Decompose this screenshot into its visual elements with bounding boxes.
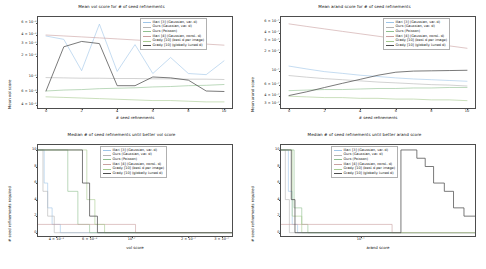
panel-mean-arand-score: Mean arand score for # of seed refinemen… (243, 4, 486, 130)
y-tick-label: 4 × 10⁻³ (21, 33, 36, 37)
x-tick-label: 10 (222, 110, 226, 114)
legend-color-swatch (103, 159, 111, 160)
x-tick-mark (90, 236, 91, 238)
x-tick-mark (46, 108, 47, 110)
panel-title: Mean arand score for # of seed refinemen… (243, 4, 486, 9)
y-tick-label: 6 × 10⁻¹ (264, 20, 279, 24)
legend: Illari [3] (Gaussian, var. d)Ours (Gauss… (100, 146, 167, 178)
legend-color-swatch (143, 22, 151, 23)
legend-color-swatch (103, 150, 111, 151)
legend-color-swatch (143, 31, 151, 32)
x-tick-mark (325, 108, 326, 110)
x-tick-mark (222, 236, 223, 238)
x-tick-label: 8 (187, 110, 189, 114)
x-tick-label: 6 (395, 110, 397, 114)
x-tick-label: 6 × 10⁻³ (82, 238, 97, 242)
x-tick-label: 4 × 10⁻³ (49, 238, 64, 242)
x-axis-label: arand score (280, 246, 476, 250)
panel-mean-vol-score: Mean vol score for # of seed refinements… (0, 4, 243, 130)
x-tick-label: 2 (80, 110, 82, 114)
legend-color-swatch (103, 155, 111, 156)
legend-color-swatch (143, 36, 151, 37)
legend-color-swatch (334, 150, 342, 151)
x-axis-label: # seed refinements (37, 116, 233, 120)
x-tick-mark (396, 108, 397, 110)
x-tick-mark (467, 108, 468, 110)
x-tick-label: 0 (288, 110, 290, 114)
x-tick-mark (431, 108, 432, 110)
x-axis-label: # seed refinements (280, 116, 476, 120)
x-tick-label: 6 (152, 110, 154, 114)
y-tick-label: 4 × 10⁻² (264, 94, 279, 98)
legend-item-label: Grady [10] (globally tuned d) (343, 172, 393, 176)
legend-color-swatch (103, 173, 111, 174)
series-line (289, 96, 467, 100)
x-axis-label: vol score (37, 246, 233, 250)
y-axis-label: # seed refinements required (251, 186, 255, 242)
x-tick-mark (360, 108, 361, 110)
y-tick-label: 6 × 10⁻² (264, 83, 279, 87)
panel-title: Mean vol score for # of seed refinements (0, 4, 243, 9)
y-tick-label: 6 × 10⁻³ (21, 21, 36, 25)
x-tick-mark (132, 236, 133, 238)
x-tick-label: 4 (116, 110, 118, 114)
y-axis-label: Mean arand score (251, 77, 255, 112)
series-line (46, 97, 224, 102)
legend-color-swatch (386, 22, 394, 23)
y-tick-label: 2 × 10⁻¹ (264, 50, 279, 54)
legend-color-swatch (143, 27, 151, 28)
x-tick-mark (56, 236, 57, 238)
y-tick-label: 10⁻¹ (272, 69, 280, 73)
panel-title: Median # of seed refinements until bette… (0, 132, 243, 137)
legend-color-swatch (103, 164, 111, 165)
x-tick-mark (289, 108, 290, 110)
series-line (38, 224, 232, 232)
legend-color-swatch (386, 27, 394, 28)
legend-color-swatch (143, 41, 151, 42)
y-tick-label: 4 × 10⁻¹ (264, 31, 279, 35)
legend: Illari [3] (Gaussian, var. d)Ours (Gauss… (140, 18, 207, 50)
legend-color-swatch (334, 159, 342, 160)
series-line (46, 78, 224, 80)
legend-color-swatch (386, 31, 394, 32)
legend-item[interactable]: Grady [10] (globally tuned d) (143, 43, 204, 48)
x-tick-label: 4 (359, 110, 361, 114)
x-tick-mark (188, 108, 189, 110)
legend-color-swatch (103, 169, 111, 170)
x-tick-mark (82, 108, 83, 110)
x-tick-mark (117, 108, 118, 110)
legend: Illari [3] (Gaussian, var. d)Ours (Gauss… (331, 146, 398, 178)
panel-title: Median # of seed refinements until bette… (243, 132, 486, 137)
legend-color-swatch (334, 164, 342, 165)
legend: Illari [3] (Gaussian, var. d)Ours (Gauss… (383, 18, 450, 50)
x-tick-label: 2 (323, 110, 325, 114)
series-line (289, 70, 467, 95)
series-line (289, 66, 467, 81)
y-tick-label: 2 × 10⁻³ (21, 54, 36, 58)
series-line (281, 224, 475, 232)
legend-color-swatch (143, 45, 151, 46)
legend-item[interactable]: Grady [10] (globally tuned d) (334, 171, 395, 176)
y-tick-label: 3 × 10⁻³ (21, 42, 36, 46)
legend-color-swatch (334, 173, 342, 174)
series-line (289, 87, 467, 90)
figure-canvas: Mean vol score for # of seed refinements… (0, 0, 486, 269)
y-tick-label: 3 × 10⁻¹ (264, 39, 279, 43)
y-tick-label: 10⁻³ (29, 75, 37, 79)
y-tick-label: 3 × 10⁻² (264, 102, 279, 106)
x-tick-label: 10 (465, 110, 469, 114)
x-tick-mark (153, 108, 154, 110)
y-axis-label: Mean vol score (8, 80, 12, 109)
x-tick-mark (224, 108, 225, 110)
y-axis-label: # seed refinements required (8, 186, 12, 242)
x-tick-label: 2 × 10⁻² (181, 238, 196, 242)
legend-color-swatch (334, 169, 342, 170)
legend-color-swatch (386, 41, 394, 42)
legend-item[interactable]: Grady [10] (globally tuned d) (103, 171, 164, 176)
legend-color-swatch (334, 155, 342, 156)
x-tick-mark (188, 236, 189, 238)
y-tick-label: 4 × 10⁻⁴ (21, 103, 36, 107)
legend-item[interactable]: Grady [10] (globally tuned d) (386, 43, 447, 48)
panel-median-refinements-arand: Median # of seed refinements until bette… (243, 132, 486, 269)
legend-item-label: Grady [10] (globally tuned d) (395, 44, 445, 48)
